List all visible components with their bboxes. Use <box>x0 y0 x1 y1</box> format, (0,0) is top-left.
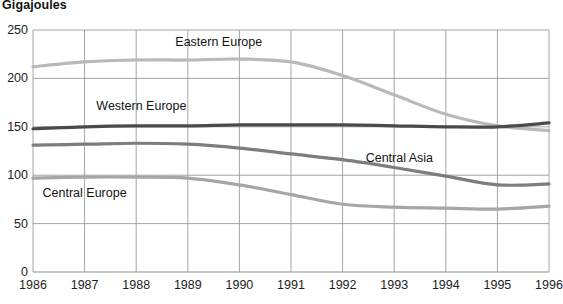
x-tick-label: 1986 <box>19 278 47 292</box>
y-tick-label: 100 <box>7 168 28 182</box>
y-tick-label: 0 <box>21 265 28 279</box>
y-tick-label: 200 <box>7 71 28 85</box>
x-tick-label: 1989 <box>174 278 202 292</box>
x-tick-label: 1991 <box>277 278 305 292</box>
x-tick-label: 1992 <box>329 278 357 292</box>
x-tick-label: 1990 <box>225 278 253 292</box>
x-tick-label: 1993 <box>380 278 408 292</box>
y-tick-label: 250 <box>7 23 28 37</box>
plot-svg <box>33 30 549 272</box>
y-axis: 050100150200250 <box>0 0 28 304</box>
x-tick-label: 1995 <box>483 278 511 292</box>
gridlines <box>33 30 549 272</box>
plot-area <box>33 30 549 272</box>
x-tick-label: 1987 <box>71 278 99 292</box>
series-label-eastern-europe: Eastern Europe <box>175 35 262 49</box>
y-tick-label: 150 <box>7 120 28 134</box>
series-label-central-europe: Central Europe <box>43 186 127 200</box>
x-tick-label: 1994 <box>432 278 460 292</box>
x-tick-label: 1988 <box>122 278 150 292</box>
x-tick-label: 1996 <box>535 278 563 292</box>
series-label-central-asia: Central Asia <box>366 151 433 165</box>
y-tick-label: 50 <box>14 217 28 231</box>
series-label-western-europe: Western Europe <box>96 99 186 113</box>
